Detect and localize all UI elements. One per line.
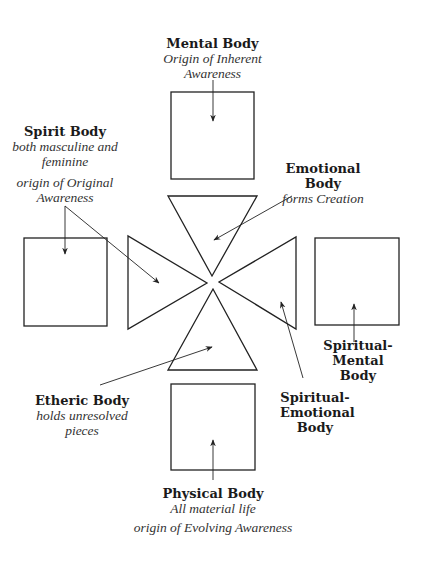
spirit-body-title: Spirit Body — [6, 124, 124, 139]
spirit-body-label: Spirit Body both masculine and feminine … — [6, 124, 124, 205]
etheric-body-desc-2: pieces — [32, 423, 132, 438]
physical-body-desc-2: origin of Evolving Awareness — [120, 520, 306, 535]
spirit-body-desc-3: origin of Original — [6, 175, 124, 190]
spirit-body-desc-4: Awareness — [6, 190, 124, 205]
mental-body-desc-1: Origin of Inherent — [140, 51, 285, 66]
spiritual-emotional-title-2: Emotional — [280, 405, 350, 420]
physical-body-desc-1: All material life — [120, 501, 306, 516]
spiritual-emotional-title-1: Spiritual- — [280, 390, 350, 405]
spiritual-mental-title-2: Mental Body — [312, 353, 404, 383]
emotional-body-title: Emotional Body — [268, 161, 378, 191]
emotional-body-label: Emotional Body forms Creation — [268, 161, 378, 206]
etheric-body-title: Etheric Body — [32, 393, 132, 408]
etheric-body-label: Etheric Body holds unresolved pieces — [32, 393, 132, 438]
spirit-body-desc-2: feminine — [6, 154, 124, 169]
spiritual-mental-body-label: Spiritual- Mental Body — [312, 338, 404, 383]
emotional-body-desc-1: forms Creation — [268, 191, 378, 206]
etheric-arrow — [100, 347, 212, 385]
spirit-diagonal-arrow — [65, 206, 159, 283]
spirit-body-desc-1: both masculine and — [6, 139, 124, 154]
mental-body-square — [171, 92, 254, 179]
diagram-canvas — [0, 0, 421, 562]
spirit-body-square — [24, 238, 107, 326]
spiritual-mental-body-square — [315, 238, 399, 325]
mental-body-desc-2: Awareness — [140, 66, 285, 81]
spiritual-emotional-arrow — [281, 302, 303, 378]
spiritual-emotional-body-label: Spiritual- Emotional Body — [280, 390, 350, 435]
mental-body-title: Mental Body — [140, 36, 285, 51]
spirit-body-triangle — [128, 236, 207, 329]
etheric-body-desc-1: holds unresolved — [32, 408, 132, 423]
spiritual-mental-title-1: Spiritual- — [312, 338, 404, 353]
spiritual-emotional-title-3: Body — [280, 420, 350, 435]
physical-body-label: Physical Body All material life origin o… — [120, 486, 306, 535]
emotional-body-triangle — [168, 196, 257, 276]
mental-body-label: Mental Body Origin of Inherent Awareness — [140, 36, 285, 81]
physical-body-title: Physical Body — [120, 486, 306, 501]
